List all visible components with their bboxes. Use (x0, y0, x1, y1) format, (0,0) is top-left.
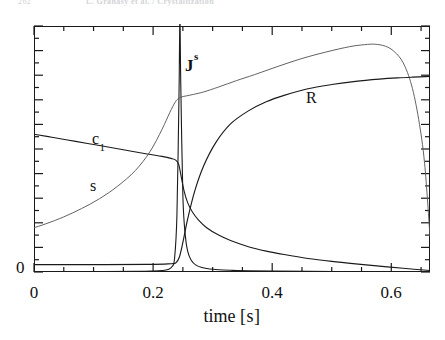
curve-label-nucleation-rate: Js (185, 58, 198, 74)
x-axis-title-word: time (204, 306, 236, 326)
x-tick-label-0: 0 (30, 284, 39, 301)
y-tick-label-0: 0 (16, 259, 25, 276)
curve-label-supersaturation: s (90, 178, 96, 194)
x-tick-label-1: 0.2 (142, 284, 163, 301)
x-axis-title: time [s] (204, 307, 261, 325)
curve-label-c: c (92, 130, 99, 147)
plot-canvas (0, 0, 445, 340)
curve-label-J-superscript: s (194, 50, 198, 62)
x-tick-label-3: 0.6 (380, 284, 401, 301)
curve-label-c-subscript: 1 (100, 141, 106, 153)
figure-page: 262 L. Gránásy et al. / Crystallization … (0, 0, 445, 340)
x-axis-title-unit: [s] (240, 306, 261, 326)
chart-figure: 0 0.2 0.4 0.6 0 time [s] Js c1 s R (0, 0, 445, 340)
curve-label-radius: R (306, 90, 317, 106)
curve-r (34, 76, 430, 264)
axis-ticks (34, 26, 430, 272)
curve-label-concentration: c1 (92, 131, 105, 147)
curve-label-J: J (185, 56, 194, 75)
x-tick-label-2: 0.4 (261, 284, 282, 301)
